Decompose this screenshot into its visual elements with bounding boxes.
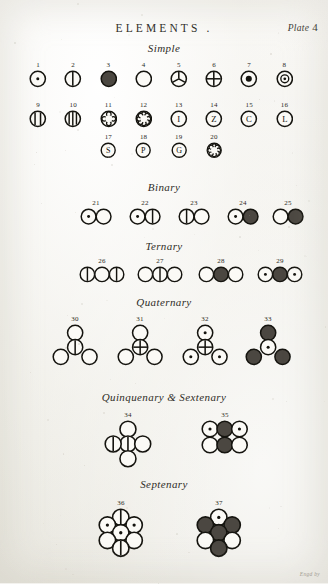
figure-number-34: 34 bbox=[104, 412, 152, 419]
symbol-26 bbox=[79, 266, 125, 283]
figure-1[interactable]: 1 bbox=[29, 62, 47, 88]
section-heading-quaternary: Quaternary bbox=[0, 296, 328, 308]
figure-number-6: 6 bbox=[205, 62, 223, 69]
paper-speck bbox=[108, 157, 109, 158]
paper-speck bbox=[141, 14, 143, 16]
symbol-6 bbox=[205, 70, 223, 88]
figure-23[interactable]: 23 bbox=[178, 200, 210, 225]
figure-34[interactable]: 34 bbox=[104, 412, 152, 468]
section-heading-quinquenary: Quinquenary & Sextenary bbox=[0, 391, 328, 403]
symbol-5 bbox=[170, 70, 188, 88]
figure-35[interactable]: 35 bbox=[201, 412, 248, 454]
section-heading-ternary: Ternary bbox=[0, 240, 328, 252]
figure-number-27: 27 bbox=[137, 258, 183, 265]
figure-37[interactable]: 37 bbox=[196, 500, 242, 558]
figure-number-2: 2 bbox=[64, 62, 82, 69]
symbol-10 bbox=[64, 110, 82, 128]
svg-text:C: C bbox=[246, 114, 252, 124]
symbol-8 bbox=[276, 70, 294, 88]
symbol-19: G bbox=[171, 142, 187, 158]
figure-number-37: 37 bbox=[196, 500, 242, 507]
figure-7[interactable]: 7 bbox=[240, 62, 258, 88]
figure-18[interactable]: 18P bbox=[135, 134, 151, 158]
figure-9[interactable]: 9 bbox=[29, 102, 47, 128]
paper-speck bbox=[278, 32, 279, 33]
figure-31[interactable]: 31 bbox=[117, 316, 163, 366]
figure-20[interactable]: 20 bbox=[206, 134, 222, 158]
figure-number-8: 8 bbox=[276, 62, 294, 69]
figure-number-32: 32 bbox=[182, 316, 228, 323]
figure-36[interactable]: 36 bbox=[98, 500, 144, 558]
figure-number-18: 18 bbox=[135, 134, 151, 141]
svg-text:S: S bbox=[106, 146, 110, 155]
paper-speck bbox=[30, 372, 31, 373]
plate-number-value: 4 bbox=[312, 21, 318, 33]
svg-text:I: I bbox=[177, 114, 180, 124]
figure-26[interactable]: 26 bbox=[79, 258, 125, 283]
figure-6[interactable]: 6 bbox=[205, 62, 223, 88]
figure-14[interactable]: 14Z bbox=[205, 102, 223, 128]
figure-15[interactable]: 15C bbox=[240, 102, 258, 128]
paper-speck bbox=[110, 379, 111, 380]
figure-2[interactable]: 2 bbox=[64, 62, 82, 88]
paper-speck bbox=[280, 506, 281, 507]
figure-22[interactable]: 22 bbox=[129, 200, 161, 225]
figure-19[interactable]: 19G bbox=[171, 134, 187, 158]
figure-number-7: 7 bbox=[240, 62, 258, 69]
figure-11[interactable]: 11 bbox=[100, 102, 118, 128]
svg-text:L: L bbox=[282, 114, 287, 124]
plate-header: ELEMENTS . Plate4 bbox=[0, 22, 328, 40]
figure-24[interactable]: 24 bbox=[227, 200, 259, 225]
paper-speck bbox=[96, 211, 98, 213]
figure-5[interactable]: 5 bbox=[170, 62, 188, 88]
figure-13[interactable]: 13I bbox=[170, 102, 188, 128]
figure-17[interactable]: 17S bbox=[100, 134, 116, 158]
figure-8[interactable]: 8 bbox=[276, 62, 294, 88]
figure-16[interactable]: 16L bbox=[276, 102, 294, 128]
paper-speck bbox=[81, 303, 83, 305]
symbol-27 bbox=[137, 266, 183, 283]
figure-25[interactable]: 25 bbox=[272, 200, 304, 225]
figure-number-21: 21 bbox=[80, 200, 112, 207]
paper-speck bbox=[274, 100, 276, 102]
figure-10[interactable]: 10 bbox=[64, 102, 82, 128]
figure-number-25: 25 bbox=[272, 200, 304, 207]
figure-number-24: 24 bbox=[227, 200, 259, 207]
figure-30[interactable]: 30 bbox=[52, 316, 98, 366]
figure-29[interactable]: 29 bbox=[257, 258, 303, 283]
symbol-7 bbox=[240, 70, 258, 88]
symbol-15: C bbox=[240, 110, 258, 128]
figure-number-3: 3 bbox=[100, 62, 118, 69]
paper-speck bbox=[131, 153, 132, 154]
figure-number-13: 13 bbox=[170, 102, 188, 109]
figure-27[interactable]: 27 bbox=[137, 258, 183, 283]
paper-speck bbox=[144, 237, 145, 238]
plate-number: Plate4 bbox=[288, 23, 318, 33]
figure-number-33: 33 bbox=[245, 316, 291, 323]
figure-3[interactable]: 3 bbox=[100, 62, 118, 88]
paper-speck bbox=[214, 434, 216, 436]
symbol-4 bbox=[135, 70, 153, 88]
figure-32[interactable]: 32 bbox=[182, 316, 228, 366]
paper-speck bbox=[128, 34, 130, 36]
paper-speck bbox=[133, 444, 134, 445]
paper-speck bbox=[176, 533, 178, 535]
paper-speck bbox=[269, 507, 270, 508]
figure-number-11: 11 bbox=[100, 102, 118, 109]
figure-28[interactable]: 28 bbox=[198, 258, 244, 283]
figure-number-4: 4 bbox=[135, 62, 153, 69]
figure-number-5: 5 bbox=[170, 62, 188, 69]
svg-text:Z: Z bbox=[211, 114, 216, 124]
figure-12[interactable]: 12 bbox=[135, 102, 153, 128]
figure-number-12: 12 bbox=[135, 102, 153, 109]
figure-4[interactable]: 4 bbox=[135, 62, 153, 88]
paper-speck bbox=[182, 271, 184, 273]
figure-number-16: 16 bbox=[276, 102, 294, 109]
figure-number-26: 26 bbox=[79, 258, 125, 265]
section-heading-simple: Simple bbox=[0, 42, 328, 54]
symbol-31 bbox=[117, 324, 163, 366]
figure-number-9: 9 bbox=[29, 102, 47, 109]
figure-33[interactable]: 33 bbox=[245, 316, 291, 366]
paper-speck bbox=[65, 568, 67, 570]
symbol-3 bbox=[100, 70, 118, 88]
